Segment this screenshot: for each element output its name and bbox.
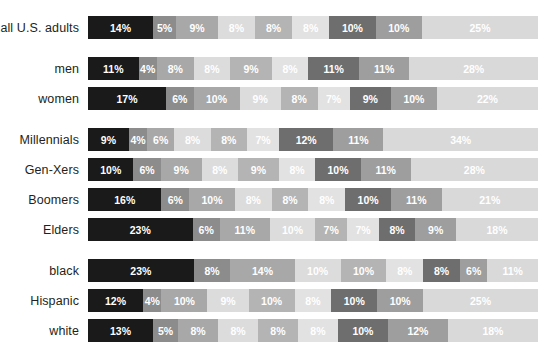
bar-segment: 8%	[218, 319, 258, 342]
bar-segment: 12%	[279, 128, 334, 151]
bar-segment: 12%	[88, 289, 143, 312]
bar-segment: 23%	[88, 259, 194, 282]
bar-segment: 10%	[377, 289, 423, 312]
bar-row-label: Millennials	[0, 133, 88, 147]
bar-segment: 8%	[194, 259, 231, 282]
bar-segment: 8%	[178, 319, 218, 342]
bar-segment: 11%	[308, 57, 359, 80]
bar-track: 17%6%10%9%8%7%9%10%22%	[88, 87, 538, 110]
bar-segment: 9%	[176, 16, 218, 39]
bar-row: Boomers16%6%10%8%8%8%10%11%21%	[0, 188, 538, 211]
bar-segment: 6%	[166, 87, 194, 110]
bar-segment: 25%	[423, 289, 538, 312]
bar-segment: 25%	[422, 16, 538, 39]
bar-segment: 10%	[341, 259, 387, 282]
bar-segment: 11%	[361, 158, 411, 181]
bar-segment: 8%	[258, 319, 298, 342]
bar-row: women17%6%10%9%8%7%9%10%22%	[0, 87, 538, 110]
bar-segment: 13%	[88, 319, 153, 342]
bar-row-label: Gen-Xers	[0, 163, 88, 177]
bar-segment: 8%	[202, 158, 238, 181]
bar-row-label: black	[0, 264, 88, 278]
bar-track: 23%8%14%10%10%8%8%6%11%	[88, 259, 538, 282]
bar-segment: 9%	[240, 87, 281, 110]
bar-segment: 8%	[272, 57, 309, 80]
bar-track: 13%5%8%8%8%8%10%12%18%	[88, 319, 538, 342]
bar-row-label: Hispanic	[0, 294, 88, 308]
bar-row: men11%4%8%8%9%8%11%11%28%	[0, 57, 538, 80]
bar-segment: 10%	[315, 158, 360, 181]
bar-segment: 22%	[437, 87, 538, 110]
bar-segment: 11%	[333, 128, 383, 151]
bar-segment: 10%	[194, 87, 240, 110]
bar-segment: 7%	[247, 128, 279, 151]
bar-segment: 8%	[308, 188, 345, 211]
bar-segment: 9%	[88, 128, 129, 151]
bar-segment: 10%	[249, 289, 295, 312]
bar-segment: 10%	[338, 319, 388, 342]
bar-segment: 7%	[318, 87, 350, 110]
bar-segment: 18%	[448, 319, 538, 342]
bar-row: all U.S. adults14%5%9%8%8%8%10%10%25%	[0, 16, 538, 39]
bar-row: white13%5%8%8%8%8%10%12%18%	[0, 319, 538, 342]
chart-rows-container: all U.S. adults14%5%9%8%8%8%10%10%25%men…	[0, 16, 538, 346]
bar-segment: 14%	[88, 16, 153, 39]
bar-segment: 5%	[153, 319, 178, 342]
bar-segment: 9%	[350, 87, 391, 110]
bar-segment: 10%	[88, 158, 133, 181]
bar-segment: 28%	[411, 158, 538, 181]
bar-segment: 8%	[174, 128, 210, 151]
bar-segment: 8%	[423, 259, 460, 282]
bar-segment: 8%	[235, 188, 272, 211]
bar-track: 14%5%9%8%8%8%10%10%25%	[88, 16, 538, 39]
bar-row-label: all U.S. adults	[0, 21, 88, 35]
bar-row-label: Boomers	[0, 193, 88, 207]
bar-segment: 9%	[230, 57, 271, 80]
bar-segment: 8%	[386, 259, 423, 282]
bar-segment: 4%	[139, 57, 157, 80]
bar-track: 12%4%10%9%10%8%10%10%25%	[88, 289, 538, 312]
bar-segment: 11%	[487, 259, 538, 282]
bar-segment: 11%	[220, 218, 270, 241]
bar-track: 11%4%8%8%9%8%11%11%28%	[88, 57, 538, 80]
bar-row: black23%8%14%10%10%8%8%6%11%	[0, 259, 538, 282]
bar-segment: 8%	[255, 16, 292, 39]
bar-segment: 6%	[161, 188, 189, 211]
bar-segment: 17%	[88, 87, 166, 110]
bar-segment: 34%	[383, 128, 538, 151]
bar-segment: 28%	[409, 57, 538, 80]
bar-segment: 6%	[133, 158, 160, 181]
bar-segment: 8%	[279, 158, 315, 181]
bar-segment: 10%	[329, 16, 375, 39]
bar-segment: 9%	[415, 218, 456, 241]
bar-segment: 11%	[88, 57, 139, 80]
bar-segment: 4%	[129, 128, 147, 151]
bar-segment: 11%	[359, 57, 410, 80]
bar-segment: 8%	[379, 218, 415, 241]
bar-segment: 9%	[238, 158, 279, 181]
bar-segment: 6%	[460, 259, 488, 282]
bar-segment: 8%	[194, 57, 231, 80]
bar-segment: 10%	[270, 218, 315, 241]
bar-segment: 16%	[88, 188, 161, 211]
bar-segment: 10%	[376, 16, 422, 39]
bar-segment: 6%	[193, 218, 220, 241]
bar-track: 10%6%9%8%9%8%10%11%28%	[88, 158, 538, 181]
bar-track: 16%6%10%8%8%8%10%11%21%	[88, 188, 538, 211]
bar-segment: 4%	[143, 289, 161, 312]
bar-segment: 21%	[442, 188, 538, 211]
bar-segment: 11%	[391, 188, 442, 211]
bar-row: Gen-Xers10%6%9%8%9%8%10%11%28%	[0, 158, 538, 181]
bar-segment: 12%	[388, 319, 448, 342]
bar-track: 23%6%11%10%7%7%8%9%18%	[88, 218, 538, 241]
bar-segment: 8%	[298, 319, 338, 342]
bar-segment: 6%	[147, 128, 174, 151]
bar-segment: 7%	[315, 218, 347, 241]
bar-segment: 8%	[211, 128, 247, 151]
bar-row: Elders23%6%11%10%7%7%8%9%18%	[0, 218, 538, 241]
bar-row: Millennials9%4%6%8%8%7%12%11%34%	[0, 128, 538, 151]
bar-segment: 8%	[281, 87, 318, 110]
bar-segment: 14%	[230, 259, 294, 282]
bar-segment: 10%	[391, 87, 437, 110]
